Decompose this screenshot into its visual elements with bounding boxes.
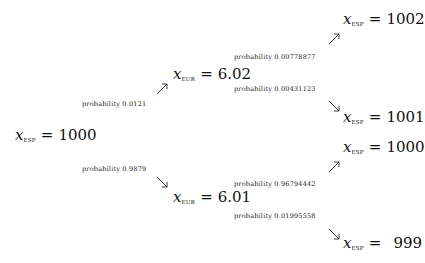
leaf-1002-value: 1002 bbox=[386, 10, 424, 28]
root-subscript: ESP bbox=[23, 137, 35, 143]
root-node: xESP=1000 bbox=[15, 128, 97, 143]
leaf-1001-equals: = bbox=[369, 108, 382, 126]
branch-upper-probability: probability 0.0121 bbox=[82, 101, 146, 108]
node-eur-lower-subscript: EUR bbox=[181, 199, 195, 205]
root-value: 1000 bbox=[58, 126, 96, 144]
leaf-1001-subscript: ESP bbox=[351, 119, 363, 125]
leaf-node-1001: xESP=1001 bbox=[343, 110, 425, 125]
root-equals: = bbox=[41, 126, 54, 144]
leaf-1002-equals: = bbox=[369, 10, 382, 28]
node-eur-upper-value: 6.02 bbox=[218, 65, 251, 83]
node-eur-lower-equals: = bbox=[200, 188, 213, 206]
leaf-node-1002: xESP=1002 bbox=[343, 12, 425, 27]
leaf-1001-value: 1001 bbox=[386, 108, 424, 126]
leaf-1002-subscript: ESP bbox=[351, 21, 363, 27]
arrow-down-right-icon bbox=[156, 176, 169, 189]
arrow-down-right-icon bbox=[328, 100, 341, 113]
leaf-999-equals: = bbox=[369, 234, 382, 252]
node-eur-lower-value: 6.01 bbox=[218, 188, 251, 206]
leaf-1000-value: 1000 bbox=[386, 138, 424, 156]
leaf-1000-equals: = bbox=[369, 138, 382, 156]
arrow-up-right-icon bbox=[328, 160, 341, 173]
node-eur-upper-subscript: EUR bbox=[181, 76, 195, 82]
leaf-node-1000: xESP=1000 bbox=[343, 140, 425, 155]
arrow-down-right-icon bbox=[328, 228, 341, 241]
leaf-1000-subscript: ESP bbox=[351, 149, 363, 155]
node-eur-upper: xEUR=6.02 bbox=[173, 67, 251, 82]
leaf-1002-probability: probability 0.00778877 bbox=[234, 54, 316, 61]
leaf-999-subscript: ESP bbox=[351, 245, 363, 251]
leaf-999-probability: probability 0.01995558 bbox=[234, 213, 316, 220]
node-eur-upper-equals: = bbox=[200, 65, 213, 83]
leaf-999-value: 999 bbox=[393, 234, 422, 252]
leaf-1000-probability: probability 0.96794442 bbox=[234, 181, 316, 188]
arrow-up-right-icon bbox=[156, 82, 169, 95]
leaf-node-999: xESP=999 bbox=[343, 236, 422, 251]
arrow-up-right-icon bbox=[328, 32, 341, 45]
branch-lower-probability: probability 0.9879 bbox=[82, 166, 146, 173]
leaf-1001-probability: probability 0.00431123 bbox=[234, 86, 316, 93]
node-eur-lower: xEUR=6.01 bbox=[173, 190, 251, 205]
